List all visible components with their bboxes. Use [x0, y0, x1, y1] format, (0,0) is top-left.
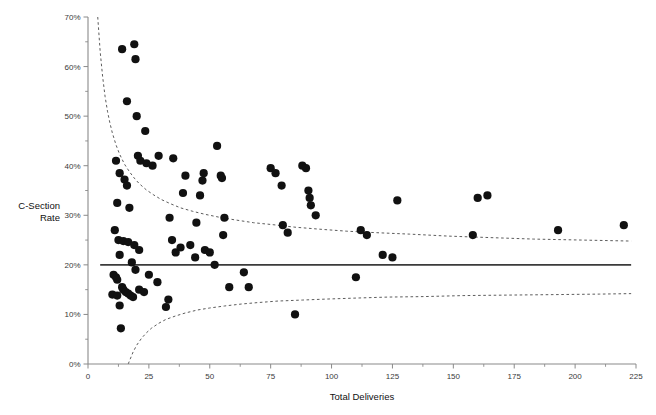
data-point	[469, 231, 477, 239]
data-point	[125, 204, 133, 212]
axes-group	[84, 17, 637, 369]
data-point	[312, 211, 320, 219]
y-axis-title-line2: Rate	[40, 212, 60, 223]
data-point	[206, 248, 214, 256]
data-point	[211, 261, 219, 269]
data-point	[186, 241, 194, 249]
data-point	[352, 273, 360, 281]
data-point	[148, 162, 156, 170]
x-tick-label: 25	[144, 372, 153, 381]
y-tick-label: 20%	[64, 261, 80, 270]
data-point	[113, 199, 121, 207]
x-tick-label: 225	[629, 372, 643, 381]
data-point	[302, 164, 310, 172]
x-tick-label: 125	[386, 372, 400, 381]
x-tick-label: 175	[508, 372, 522, 381]
data-point	[169, 154, 177, 162]
data-point	[388, 253, 396, 261]
data-point	[165, 214, 173, 222]
data-point	[191, 253, 199, 261]
data-point	[130, 40, 138, 48]
x-tick-label: 150	[447, 372, 461, 381]
data-point	[620, 221, 628, 229]
data-point	[112, 157, 120, 165]
data-point	[474, 194, 482, 202]
data-point	[196, 191, 204, 199]
data-point	[304, 186, 312, 194]
x-axis-title: Total Deliveries	[330, 391, 395, 402]
data-point	[162, 303, 170, 311]
data-point	[129, 293, 137, 301]
data-point	[219, 231, 227, 239]
data-point	[141, 127, 149, 135]
data-point	[155, 152, 163, 160]
y-tick-label: 60%	[64, 63, 80, 72]
data-point	[379, 251, 387, 259]
data-point	[133, 112, 141, 120]
data-point	[140, 288, 148, 296]
data-point	[181, 172, 189, 180]
chart-canvas: 02550751001251501752002250%10%20%30%40%5…	[0, 0, 656, 415]
data-point	[113, 276, 121, 284]
data-point	[245, 283, 253, 291]
data-point	[131, 55, 139, 63]
x-tick-label: 0	[86, 372, 91, 381]
funnel-plot-chart: 02550751001251501752002250%10%20%30%40%5…	[0, 0, 656, 415]
data-point	[128, 258, 136, 266]
data-point	[116, 251, 124, 259]
data-point	[393, 196, 401, 204]
y-tick-label: 40%	[64, 162, 80, 171]
data-point	[123, 97, 131, 105]
x-tick-label: 75	[266, 372, 275, 381]
y-axis-title-line1: C-Section	[18, 200, 60, 211]
data-point	[113, 291, 121, 299]
data-point	[306, 194, 314, 202]
data-point	[117, 324, 125, 332]
x-tick-label: 50	[205, 372, 214, 381]
y-tick-label: 0%	[69, 360, 81, 369]
data-point	[363, 231, 371, 239]
data-point	[168, 236, 176, 244]
data-point	[220, 214, 228, 222]
data-point	[483, 191, 491, 199]
data-point	[176, 243, 184, 251]
data-point	[291, 310, 299, 318]
control-limit-lines	[98, 17, 631, 364]
x-tick-label: 200	[568, 372, 582, 381]
data-point	[179, 189, 187, 197]
data-point	[554, 226, 562, 234]
control-limit-line	[128, 294, 631, 364]
y-tick-label: 10%	[64, 310, 80, 319]
data-point	[284, 229, 292, 237]
data-point	[153, 278, 161, 286]
data-point	[131, 266, 139, 274]
data-point	[271, 169, 279, 177]
y-tick-label: 50%	[64, 112, 80, 121]
x-tick-label: 100	[325, 372, 339, 381]
data-point	[145, 271, 153, 279]
control-limit-line	[98, 17, 631, 241]
data-point	[123, 181, 131, 189]
data-point	[116, 301, 124, 309]
data-point	[279, 221, 287, 229]
data-point	[278, 181, 286, 189]
y-tick-label: 70%	[64, 13, 80, 22]
data-point	[213, 142, 221, 150]
data-point	[111, 226, 119, 234]
data-point	[200, 169, 208, 177]
axis-labels-group: 02550751001251501752002250%10%20%30%40%5…	[18, 13, 643, 402]
data-point	[240, 268, 248, 276]
y-tick-label: 30%	[64, 211, 80, 220]
data-points-group	[108, 40, 628, 332]
data-point	[198, 176, 206, 184]
data-point	[218, 174, 226, 182]
data-point	[192, 219, 200, 227]
data-point	[164, 295, 172, 303]
data-point	[135, 246, 143, 254]
data-point	[118, 45, 126, 53]
data-point	[307, 201, 315, 209]
data-point	[225, 283, 233, 291]
